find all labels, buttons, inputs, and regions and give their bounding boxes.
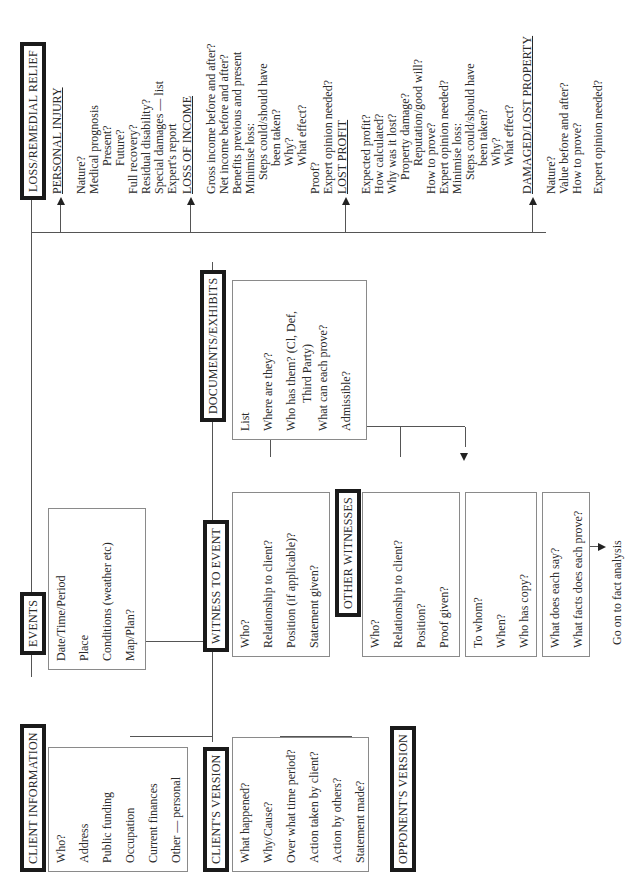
list-item: Conditions (weather etc) [101,517,113,661]
list-item: Admissible? [340,289,352,431]
witness-to-event-header: WITNESS TO EVENT [203,520,229,652]
list-item: What effect? [503,59,516,194]
list-item: Relationship to client? [392,501,404,648]
list-item: Expert opinion needed? [322,43,335,194]
list-item: Who has them? (Cl, Def, [285,289,297,431]
other-witnesses-header: OTHER WITNESSES [335,489,361,617]
list-item: Occupation [124,756,136,863]
events-header: EVENTS [20,592,46,655]
arrow-stem-personal-injury [60,205,61,233]
personal-injury-section: PERSONAL INJURY Nature? Medical prognosi… [50,81,179,194]
documents-exhibits-box: List Where are they? Who has them? (Cl, … [232,280,367,440]
arrow-stem-loss-income [190,205,191,233]
lost-profit-section: LOST PROFIT Expected profit? How calcula… [335,59,516,194]
clients-version-header: CLIENT'S VERSION [203,747,229,872]
next-step-label: Go on to fact analysis [610,540,625,645]
list-item: Where are they? [262,289,274,431]
lost-profit-heading: LOST PROFIT [335,59,350,194]
arrow-lost-profit-icon [342,197,350,205]
list-item: Expert's report [166,81,179,194]
arrow-damaged-property-icon [529,197,537,205]
list-item: To whom? [472,501,484,648]
list-item: Expert opinion needed? [592,36,605,194]
damaged-lost-property-section: DAMAGED/LOST PROPERTY Nature? Value befo… [520,36,605,194]
list-item: Public funding [101,756,113,863]
list-item: Statement made? [354,746,366,863]
connector-events-box-witness-v [140,641,212,642]
list-item: Position (if applicable)? [285,501,297,648]
list-item: Relationship to client? [262,501,274,648]
list-item: been taken? [477,59,490,194]
list-item: List [239,289,251,431]
list-item: How to prove? [571,36,584,194]
list-item: What can each prove? [317,289,329,431]
arrow-stem-lost-profit [345,205,346,233]
witness-bracket-mid [400,427,401,457]
personal-injury-heading: PERSONAL INJURY [50,81,65,194]
loss-remedial-relief-header: LOSS/REMEDIAL RELIEF [20,42,46,200]
list-item: What does each say? [549,501,561,648]
documents-exhibits-header: DOCUMENTS/EXHIBITS [200,270,226,422]
list-item: Who? [369,501,381,648]
list-item: Current finances [147,756,159,863]
client-information-box: Who? Address Public funding Occupation C… [48,747,188,872]
damaged-lost-property-heading: DAMAGED/LOST PROPERTY [520,36,535,194]
list-item: Action taken by client? [308,746,320,863]
clients-version-box: What happened? Why/Cause? Over what time… [232,737,369,872]
list-item: Map/Plan? [124,517,136,661]
loss-of-income-heading: LOSS OF INCOME [180,43,195,194]
loss-of-income-section: LOSS OF INCOME Gross income before and a… [180,43,335,194]
list-item: Over what time period? [285,746,297,863]
list-item: Who? [55,756,67,863]
list-item: Who has copy? [518,501,530,648]
events-box: Date/Time/Period Place Conditions (weath… [48,508,146,670]
list-item: Address [78,756,90,863]
client-information-header: CLIENT INFORMATION [20,724,46,872]
list-item: Position? [415,501,427,648]
list-item: Place [78,517,90,661]
list-item: Action by others? [331,746,343,863]
list-item: Third Party) [301,289,313,431]
list-item: What happened? [239,746,251,863]
witness-bracket-bottom [465,427,466,447]
list-item: Why/Cause? [262,746,274,863]
list-item: What facts does each prove? [572,501,584,648]
loss-branch-line [31,232,546,233]
list-item: Other — personal [170,756,182,863]
proof-box: What does each say? What facts does each… [542,492,590,657]
other-witnesses-box: Who? Relationship to client? Position? P… [362,492,460,657]
list-item: When? [495,501,507,648]
list-item: been taken? [270,43,283,194]
list-item: Date/Time/Period [55,517,67,661]
list-item: Who? [239,501,251,648]
connector-events-documents [31,256,32,257]
arrow-next-step-icon [598,543,606,551]
arrow-stem-damaged-property [532,205,533,233]
list-item: Proof given? [438,501,450,648]
connector-clientinfo-version [130,736,212,737]
arrow-personal-injury-icon [57,197,65,205]
opponents-version-header: OPPONENT'S VERSION [390,726,416,872]
fact-gathering-flowchart: CLIENT INFORMATION EVENTS LOSS/REMEDIAL … [0,0,632,877]
arrow-loss-income-icon [187,197,195,205]
witness-to-event-box: Who? Relationship to client? Position (i… [232,492,330,657]
list-item: Statement given? [308,501,320,648]
arrow-statement-icon [460,453,468,461]
statement-details-box: To whom? When? Who has copy? [465,492,537,657]
